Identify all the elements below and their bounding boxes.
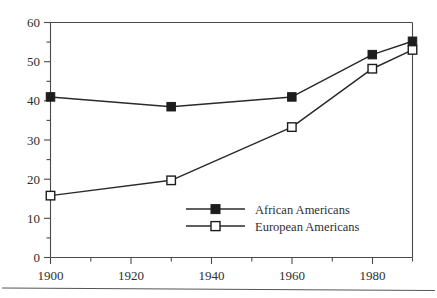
data-point-marker	[408, 37, 417, 46]
x-tick-label: 1900	[38, 268, 64, 283]
y-axis-major-ticks	[44, 23, 51, 258]
y-axis-labels: 60 50 40 30 20 10 0	[27, 15, 40, 265]
series-line-african-americans	[51, 41, 413, 106]
x-tick-label: 1940	[199, 268, 225, 283]
data-point-marker	[288, 123, 297, 132]
chart-legend: African Americans European Americans	[186, 203, 360, 234]
y-tick-label: 50	[27, 54, 40, 69]
y-tick-label: 30	[27, 133, 40, 148]
x-tick-label: 1960	[279, 268, 305, 283]
legend-item-african-americans: African Americans	[186, 203, 350, 217]
figure-container: 60 50 40 30 20 10 0 1900 1920	[0, 0, 437, 298]
x-axis-major-ticks	[51, 258, 373, 265]
series-african-americans	[46, 37, 417, 111]
y-tick-label: 20	[27, 172, 40, 187]
series-markers-african-americans	[46, 37, 417, 111]
series-line-european-americans	[51, 50, 413, 196]
legend-label-african-americans: African Americans	[255, 203, 350, 217]
x-axis-labels: 1900 1920 1940 1960 1980	[38, 268, 386, 283]
legend-marker-open-square	[211, 222, 220, 231]
data-point-marker	[46, 93, 55, 102]
line-chart: 60 50 40 30 20 10 0 1900 1920	[0, 0, 437, 298]
x-tick-label: 1920	[118, 268, 144, 283]
data-point-marker	[368, 64, 377, 73]
data-point-marker	[288, 93, 297, 102]
y-tick-label: 10	[27, 211, 40, 226]
y-tick-label: 60	[27, 15, 40, 30]
y-tick-label: 0	[34, 250, 41, 265]
series-markers-european-americans	[46, 46, 417, 200]
x-axis-minor-ticks	[91, 258, 413, 262]
data-point-marker	[167, 102, 176, 111]
legend-marker-filled-square	[211, 205, 220, 214]
legend-item-european-americans: European Americans	[186, 220, 360, 234]
data-point-marker	[46, 191, 55, 200]
data-point-marker	[167, 176, 176, 185]
x-tick-label: 1980	[360, 268, 386, 283]
series-european-americans	[46, 46, 417, 200]
data-point-marker	[368, 50, 377, 59]
data-point-marker	[408, 46, 417, 55]
page-bottom-rule	[2, 288, 435, 291]
legend-label-european-americans: European Americans	[255, 220, 360, 234]
y-tick-label: 40	[27, 93, 40, 108]
